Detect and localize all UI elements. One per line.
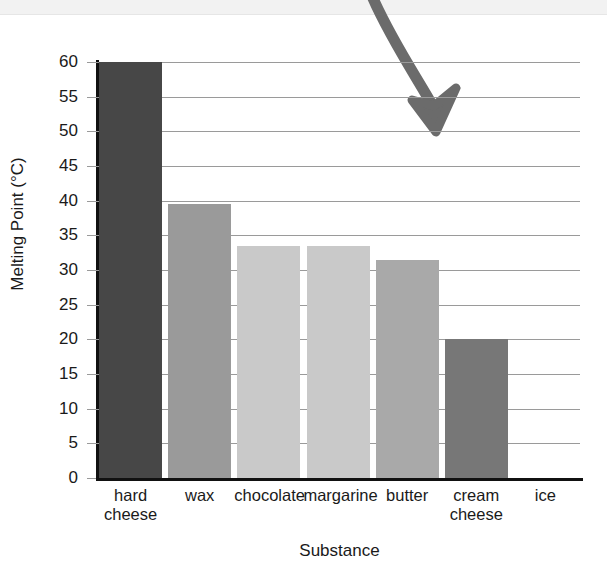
x-axis-title: Substance bbox=[96, 541, 583, 561]
y-axis-tick-label: 10 bbox=[38, 400, 78, 417]
gridline bbox=[96, 166, 580, 167]
x-axis-tick-label-line: chocolate bbox=[234, 486, 303, 505]
y-axis-tick-label: 0 bbox=[38, 469, 78, 486]
y-axis-title: Melting Point (°C) bbox=[8, 34, 28, 414]
y-axis-tick-label: 20 bbox=[38, 330, 78, 347]
x-axis-tick-label: butter bbox=[373, 486, 442, 505]
x-axis-tick-label: hardcheese bbox=[96, 486, 165, 524]
y-axis-tick-label: 55 bbox=[38, 88, 78, 105]
gridline bbox=[96, 97, 580, 98]
y-axis-tick bbox=[87, 270, 96, 271]
x-axis-tick-label-line: butter bbox=[373, 486, 442, 505]
y-axis-tick bbox=[87, 235, 96, 236]
plot-area: 605550454035302520151050 bbox=[96, 62, 580, 478]
y-axis-tick bbox=[87, 166, 96, 167]
x-axis-tick-label-line: cream bbox=[442, 486, 511, 505]
y-axis-tick-label: 50 bbox=[38, 122, 78, 139]
x-axis-tick-label: margarine bbox=[303, 486, 372, 505]
x-axis-tick-label-line: cheese bbox=[96, 505, 165, 524]
y-axis-tick bbox=[87, 374, 96, 375]
y-axis-tick bbox=[87, 97, 96, 98]
y-axis-tick bbox=[87, 62, 96, 63]
y-axis-tick-label: 5 bbox=[38, 434, 78, 451]
x-axis-tick-label-line: ice bbox=[511, 486, 580, 505]
bar-margarine[interactable] bbox=[307, 246, 370, 478]
down-arrow-icon bbox=[364, 0, 484, 166]
bar-chocolate[interactable] bbox=[237, 246, 300, 478]
y-axis-tick bbox=[87, 305, 96, 306]
bar-chart: 605550454035302520151050 Melting Point (… bbox=[0, 0, 607, 582]
x-axis-tick-label-line: hard bbox=[96, 486, 165, 505]
y-axis-tick-label: 30 bbox=[38, 261, 78, 278]
x-axis-tick-label: chocolate bbox=[234, 486, 303, 505]
y-axis-tick bbox=[87, 131, 96, 132]
x-axis-tick-label-line: margarine bbox=[303, 486, 372, 505]
y-axis-tick-label: 60 bbox=[38, 53, 78, 70]
x-axis-tick-label: ice bbox=[511, 486, 580, 505]
y-axis-tick bbox=[87, 201, 96, 202]
x-axis-tick-label: wax bbox=[165, 486, 234, 505]
x-axis-tick-label-line: wax bbox=[165, 486, 234, 505]
y-axis-tick bbox=[87, 443, 96, 444]
bar-hard-cheese[interactable] bbox=[99, 62, 162, 478]
gridline bbox=[96, 131, 580, 132]
y-axis-tick-label: 25 bbox=[38, 296, 78, 313]
y-axis-tick bbox=[87, 478, 96, 479]
y-axis-tick-label: 15 bbox=[38, 365, 78, 382]
bar-butter[interactable] bbox=[376, 260, 439, 478]
x-axis-tick-label-line: cheese bbox=[442, 505, 511, 524]
y-axis-tick bbox=[87, 409, 96, 410]
y-axis-tick-label: 40 bbox=[38, 192, 78, 209]
y-axis-tick bbox=[87, 339, 96, 340]
gridline bbox=[96, 62, 580, 63]
bar-wax[interactable] bbox=[168, 204, 231, 478]
y-axis-tick-label: 45 bbox=[38, 157, 78, 174]
x-axis-tick-label: creamcheese bbox=[442, 486, 511, 524]
x-axis-line bbox=[96, 478, 583, 481]
bar-cream-cheese[interactable] bbox=[445, 339, 508, 478]
y-axis-tick-label: 35 bbox=[38, 226, 78, 243]
gridline bbox=[96, 201, 580, 202]
